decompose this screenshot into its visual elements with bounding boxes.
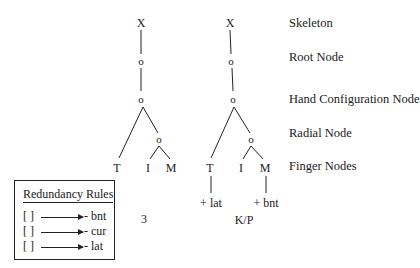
skeleton-node: X bbox=[137, 17, 146, 29]
handshape-caption: K/P bbox=[235, 214, 254, 226]
label-hand-configuration-node: Hand Configuration Node bbox=[289, 93, 420, 106]
label-root-node: Root Node bbox=[289, 51, 344, 64]
root-node: o bbox=[138, 56, 144, 67]
radial-node: o bbox=[248, 134, 254, 145]
finger-node-index: I bbox=[239, 162, 243, 174]
finger-node-index: I bbox=[146, 162, 150, 174]
rule-row: [ ]- cur bbox=[23, 225, 106, 237]
label-skeleton: Skeleton bbox=[289, 17, 333, 30]
thumb-feature: + lat bbox=[200, 197, 222, 209]
rule-lhs: [ ] bbox=[23, 240, 41, 252]
skeleton-node: X bbox=[226, 17, 235, 29]
label-radial-node: Radial Node bbox=[289, 127, 352, 140]
arrow-icon bbox=[41, 232, 83, 233]
middle-feature: + bnt bbox=[253, 197, 278, 209]
finger-node-thumb: T bbox=[206, 162, 213, 174]
redundancy-rules-box: Redundancy Rules [ ]- bnt [ ]- cur [ ]- … bbox=[14, 180, 115, 260]
arrow-icon bbox=[41, 247, 83, 248]
rule-lhs: [ ] bbox=[23, 210, 41, 222]
hand-config-node: o bbox=[138, 94, 144, 105]
finger-node-middle: M bbox=[166, 162, 177, 174]
rule-lhs: [ ] bbox=[23, 225, 41, 237]
rule-rhs: - bnt bbox=[84, 209, 106, 223]
rule-rhs: - cur bbox=[84, 224, 106, 238]
hand-config-node: o bbox=[230, 94, 236, 105]
finger-node-thumb: T bbox=[113, 162, 120, 174]
rule-rhs: - lat bbox=[84, 239, 103, 253]
redundancy-rules-title: Redundancy Rules bbox=[23, 188, 113, 203]
label-finger-nodes: Finger Nodes bbox=[289, 160, 357, 173]
finger-node-middle: M bbox=[260, 162, 271, 174]
handshape-caption: 3 bbox=[141, 213, 147, 225]
root-node: o bbox=[228, 56, 234, 67]
rule-row: [ ]- lat bbox=[23, 240, 103, 252]
arrow-icon bbox=[41, 217, 83, 218]
rule-row: [ ]- bnt bbox=[23, 210, 106, 222]
radial-node: o bbox=[156, 134, 162, 145]
